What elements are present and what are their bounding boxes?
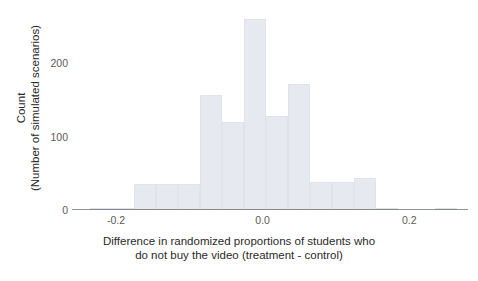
histogram-bar xyxy=(222,122,244,210)
x-axis-tick-labels: -0.20.00.2 xyxy=(72,214,468,232)
histogram-bar xyxy=(354,178,376,210)
y-axis-tick-label: 100 xyxy=(34,131,68,143)
x-axis-tick-label: -0.2 xyxy=(107,214,125,226)
histogram-bar xyxy=(266,116,288,210)
x-axis-tick-label: 0.2 xyxy=(402,214,417,226)
histogram-bar xyxy=(156,184,178,210)
y-axis-tick-label: 0 xyxy=(34,204,68,216)
x-axis-tick-label: 0.0 xyxy=(255,214,270,226)
x-axis-line xyxy=(72,209,468,210)
histogram-bar xyxy=(332,182,354,210)
y-axis-title-line1: Count xyxy=(14,24,28,190)
histogram-bar xyxy=(310,182,332,210)
histogram-bar xyxy=(244,19,266,210)
y-axis-tick-label: 200 xyxy=(34,57,68,69)
x-axis-title-line1: Difference in randomized proportions of … xyxy=(0,234,478,248)
histogram-bar xyxy=(178,184,200,210)
x-axis-title: Difference in randomized proportions of … xyxy=(0,234,478,262)
x-axis-title-line2: do not buy the video (treatment - contro… xyxy=(0,248,478,262)
histogram-bar xyxy=(134,184,156,210)
histogram-bar xyxy=(288,84,310,210)
histogram-bar xyxy=(200,95,222,210)
plot-area xyxy=(72,8,468,210)
histogram-figure: Count (Number of simulated scenarios) 01… xyxy=(0,0,478,281)
